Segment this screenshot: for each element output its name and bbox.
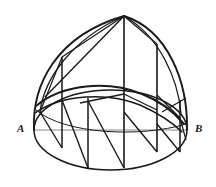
geometric-figure: A B — [0, 0, 216, 187]
band-upper-edge — [36, 86, 184, 124]
diagonal-apex-to-right-rib — [124, 16, 157, 44]
diagonal-lower-3 — [88, 101, 124, 168]
vertex-label-b: B — [195, 123, 202, 134]
diagonal-mid-5 — [162, 98, 186, 112]
vertex-label-a: A — [17, 123, 24, 134]
back-arc-group — [36, 110, 186, 132]
dome-outline-group — [34, 16, 187, 130]
slanted-band-group — [35, 86, 184, 132]
back-rim-arc — [36, 110, 186, 132]
diagonal-apex-to-mid-left — [62, 16, 124, 57]
dome-diagram-svg — [0, 0, 216, 187]
diagonal-lower-2 — [62, 100, 88, 168]
diagonal-mid-4 — [157, 95, 180, 118]
meridian-left-outline — [34, 16, 124, 130]
